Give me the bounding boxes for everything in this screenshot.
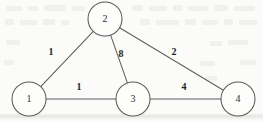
graph-diagram: 1234 18214 (0, 0, 263, 122)
edge-weight-label-1-2: 1 (49, 46, 54, 57)
figure-canvas: 1234 18214 (0, 0, 263, 122)
edge-weight-label-1-3: 1 (77, 81, 82, 92)
graph-edge-1-2 (41, 31, 94, 86)
graph-node-2: 2 (88, 2, 122, 36)
edge-weight-label-2-3: 8 (119, 48, 124, 59)
graph-edge-2-4 (120, 28, 224, 90)
edge-weight-label-3-4: 4 (182, 81, 187, 92)
edge-weight-label-2-4: 2 (172, 46, 177, 57)
graph-node-1: 1 (12, 82, 46, 116)
graph-node-3: 3 (116, 82, 150, 116)
node-label-2: 2 (103, 13, 108, 24)
node-label-1: 1 (27, 93, 32, 104)
node-label-4: 4 (236, 93, 241, 104)
graph-node-4: 4 (221, 82, 255, 116)
node-label-3: 3 (131, 93, 136, 104)
